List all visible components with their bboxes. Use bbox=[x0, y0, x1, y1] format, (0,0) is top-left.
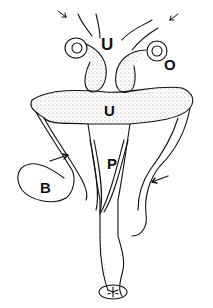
left-ovary bbox=[65, 38, 87, 58]
label-b: B bbox=[40, 180, 51, 195]
left-duct-top bbox=[78, 14, 92, 36]
label-u-mid: U bbox=[104, 103, 115, 118]
label-p: P bbox=[107, 156, 117, 171]
label-u-top: U bbox=[101, 36, 113, 53]
label-o: O bbox=[164, 57, 176, 72]
anatomy-figure: U O U P B bbox=[0, 0, 213, 308]
